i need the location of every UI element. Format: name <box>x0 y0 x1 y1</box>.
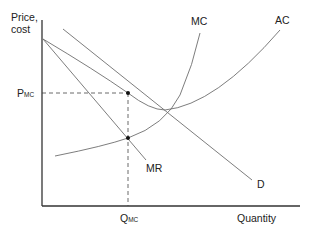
price-marker-label: PMC <box>17 88 34 99</box>
y-axis-label-line1: Price, <box>11 12 38 23</box>
demand-curve <box>63 29 252 180</box>
mc-label: MC <box>191 16 207 27</box>
ac-label: AC <box>275 15 290 26</box>
demand-label: D <box>257 179 265 190</box>
mr-label: MR <box>146 163 162 174</box>
price-marker-main: P <box>17 87 24 99</box>
price-marker-sub: MC <box>24 91 34 98</box>
price-point-marker <box>126 91 130 95</box>
y-axis-label-line2: cost <box>11 24 30 35</box>
x-axis-label: Quantity <box>237 213 276 224</box>
average-cost-curve <box>43 30 280 110</box>
quantity-marker-label: QMC <box>120 213 138 224</box>
quantity-marker-sub: MC <box>128 216 138 223</box>
marginal-revenue-curve <box>43 39 146 160</box>
diagram-canvas <box>0 0 309 232</box>
mr-mc-intersection-marker <box>126 136 130 140</box>
quantity-marker-main: Q <box>120 212 128 224</box>
